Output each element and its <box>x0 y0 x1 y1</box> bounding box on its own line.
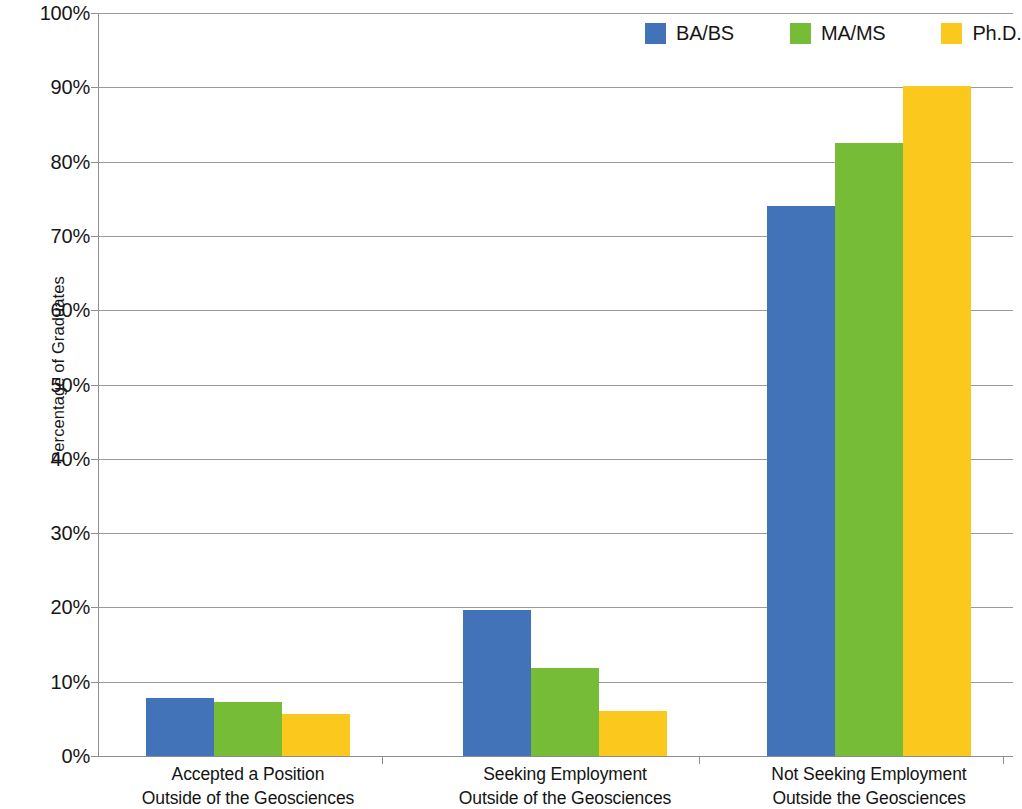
gridline <box>98 87 1013 88</box>
y-axis-tick-mark <box>91 236 98 237</box>
bar-ph-d--group-2 <box>599 711 667 756</box>
y-axis-tick-label: 100% <box>6 2 90 25</box>
x-axis-label-line2: Outside of the Geosciences <box>415 786 715 809</box>
legend-label: Ph.D. <box>972 22 1021 45</box>
plot-area <box>98 13 1013 756</box>
y-axis-tick-mark <box>91 162 98 163</box>
bar-ba-bs-group-3 <box>767 206 835 756</box>
y-axis-tick-mark <box>91 459 98 460</box>
y-axis-tick-label: 40% <box>6 447 90 470</box>
y-axis-tick-label: 90% <box>6 76 90 99</box>
y-axis-tick-mark <box>91 756 98 757</box>
x-axis-label-line1: Accepted a Position <box>172 764 325 784</box>
y-axis-tick-label: 80% <box>6 150 90 173</box>
x-axis-label-group-2: Seeking EmploymentOutside of the Geoscie… <box>415 762 715 809</box>
bar-ma-ms-group-1 <box>214 702 282 756</box>
x-axis-label-group-3: Not Seeking EmploymentOutside the Geosci… <box>719 762 1019 809</box>
bar-ph-d--group-1 <box>282 714 350 756</box>
legend-swatch-icon <box>645 23 666 44</box>
bar-ma-ms-group-3 <box>835 143 903 756</box>
legend-label: MA/MS <box>821 22 886 45</box>
x-axis-label-line2: Outside the Geosciences <box>719 786 1019 809</box>
x-axis-label-group-1: Accepted a PositionOutside of the Geosci… <box>98 762 398 809</box>
legend-item-ba-bs[interactable]: BA/BS <box>645 22 734 45</box>
y-axis-tick-mark <box>91 607 98 608</box>
y-axis-tick-mark <box>91 87 98 88</box>
y-axis-tick-mark <box>91 533 98 534</box>
legend-label: BA/BS <box>676 22 734 45</box>
gridline <box>98 13 1013 14</box>
legend-item-ph-d-[interactable]: Ph.D. <box>941 22 1021 45</box>
y-axis-tick-label: 70% <box>6 224 90 247</box>
bar-ba-bs-group-1 <box>146 698 214 756</box>
y-axis-tick-mark <box>91 385 98 386</box>
x-axis-category-labels: Accepted a PositionOutside of the Geosci… <box>98 762 1013 809</box>
y-axis-tick-label: 50% <box>6 373 90 396</box>
bar-ma-ms-group-2 <box>531 668 599 756</box>
y-axis-tick-label: 0% <box>6 745 90 768</box>
x-axis-label-line2: Outside of the Geosciences <box>98 786 398 809</box>
y-axis-tick-label: 10% <box>6 670 90 693</box>
bar-ph-d--group-3 <box>903 86 971 756</box>
x-axis-label-line1: Seeking Employment <box>483 764 647 784</box>
legend-item-ma-ms[interactable]: MA/MS <box>790 22 886 45</box>
y-axis-tick-mark <box>91 310 98 311</box>
x-axis-label-line1: Not Seeking Employment <box>771 764 966 784</box>
gridline <box>98 756 1013 757</box>
y-axis-tick-label: 60% <box>6 299 90 322</box>
y-axis-tick-mark <box>91 13 98 14</box>
y-axis-tick-label: 30% <box>6 522 90 545</box>
y-axis-tick-labels: 100%90%80%70%60%50%40%30%20%10%0% <box>0 0 90 809</box>
bar-ba-bs-group-2 <box>463 610 531 756</box>
y-axis-tick-mark <box>91 682 98 683</box>
chart-legend: BA/BSMA/MSPh.D. <box>645 22 1022 45</box>
y-axis-tick-label: 20% <box>6 596 90 619</box>
legend-swatch-icon <box>790 23 811 44</box>
legend-swatch-icon <box>941 23 962 44</box>
